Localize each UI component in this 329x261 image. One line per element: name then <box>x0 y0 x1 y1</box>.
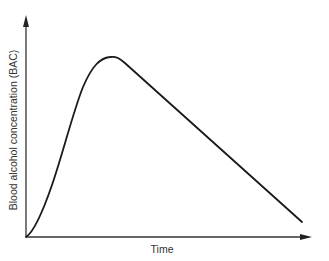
y-axis-label: Blood alcohol concentration (BAC) <box>7 50 19 211</box>
x-axis-arrow-icon <box>300 234 312 240</box>
bac-curve <box>26 57 302 237</box>
y-axis-arrow-icon <box>23 15 29 27</box>
bac-chart <box>0 0 329 261</box>
x-axis-label: Time <box>151 243 174 255</box>
